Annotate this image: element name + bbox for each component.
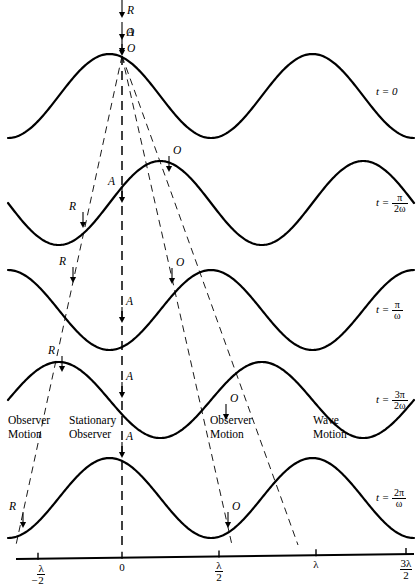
point-label-A-row-5: A — [126, 431, 133, 443]
point-label-R-row-4: R — [48, 345, 55, 357]
point-label-O-row-2: O — [173, 145, 181, 157]
x-axis-tick-label-4: 3λ2 — [390, 558, 420, 581]
x-axis-tick-label-2: λ2 — [203, 560, 235, 583]
time-label-row-3: t = πω — [376, 300, 403, 321]
x-axis-tick-label-0: −λ2 — [22, 563, 54, 585]
point-label-A-row-2: A — [108, 176, 115, 188]
point-label-O-row-3: O — [176, 257, 184, 269]
motion-label-line1: Stationary — [69, 413, 116, 427]
top-arrow-label-R: R — [127, 5, 134, 17]
motion-label-stationary-observer: StationaryObserver — [69, 413, 116, 442]
point-label-R-row-2: R — [69, 201, 76, 213]
time-label-row-1: t = 0 — [376, 86, 398, 97]
motion-label-wave-motion: WaveMotion — [313, 413, 347, 442]
top-arrow-label-A: A — [127, 27, 134, 39]
x-axis-line — [16, 554, 414, 559]
motion-label-line1: Observer — [210, 413, 252, 427]
point-label-R-row-3: R — [59, 256, 66, 268]
time-label-row-2: t = π2ω — [376, 193, 408, 214]
point-label-A-row-3: A — [126, 296, 133, 308]
x-axis-tick-label-1: 0 — [106, 562, 138, 573]
motion-label-line1: Observer — [8, 413, 50, 427]
point-label-O-row-5: O — [232, 501, 240, 513]
time-label-row-5: t = 2πω — [376, 488, 406, 509]
figure-canvas: ORAORAORAORAORAOt = 0t = π2ωt = πωt = 3π… — [0, 0, 420, 585]
x-axis-layer — [0, 0, 420, 585]
top-arrow-label-O: O — [127, 43, 135, 55]
time-label-row-4: t = 3π2ω — [376, 390, 408, 411]
motion-label-line2: Motion — [210, 427, 252, 441]
point-label-R-row-5: R — [9, 501, 16, 513]
motion-label-observer-motion-left: ObserverMotion — [8, 413, 50, 442]
motion-label-observer-motion-right: ObserverMotion — [210, 413, 252, 442]
x-axis-tick-label-3: λ — [300, 559, 332, 570]
motion-label-line2: Motion — [313, 427, 347, 441]
motion-label-line2: Motion — [8, 427, 50, 441]
point-label-O-row-4: O — [230, 393, 238, 405]
motion-label-line1: Wave — [313, 413, 347, 427]
motion-label-line2: Observer — [69, 427, 116, 441]
point-label-A-row-4: A — [126, 371, 133, 383]
